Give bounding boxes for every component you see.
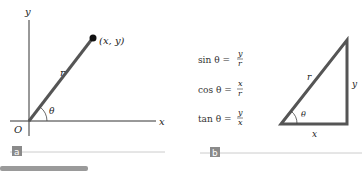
triangle-angle-label: θ	[301, 110, 306, 119]
diagram-canvas: y x O (x, y) r θ a sin θ = y r cos θ = x…	[0, 0, 362, 171]
x-axis-label: x	[159, 116, 165, 127]
cos-lhs: cos θ =	[198, 85, 232, 95]
badge-b-text: b	[212, 148, 218, 158]
angle-label: θ	[49, 106, 55, 116]
tan-den: x	[238, 118, 243, 127]
radius-line	[29, 39, 92, 121]
sin-num: y	[237, 49, 243, 58]
hypotenuse-label: r	[307, 72, 312, 82]
sin-den: r	[238, 59, 243, 68]
panel-a: y x O (x, y) r θ a	[0, 6, 165, 171]
tan-num: y	[237, 108, 243, 117]
badge-a-text: a	[14, 147, 20, 157]
sin-lhs: sin θ =	[198, 55, 230, 65]
tan-lhs: tan θ =	[198, 114, 231, 124]
point-dot	[90, 35, 97, 42]
footer-bar	[0, 166, 88, 171]
origin-label: O	[14, 124, 22, 135]
y-axis-label: y	[24, 6, 31, 17]
point-label: (x, y)	[99, 35, 125, 46]
triangle-angle-arc	[291, 111, 297, 124]
angle-arc	[40, 107, 47, 121]
cos-den: r	[238, 89, 243, 98]
adjacent-label: x	[312, 129, 317, 139]
opposite-label: y	[351, 79, 358, 89]
cos-num: x	[238, 79, 243, 88]
panel-b: sin θ = y r cos θ = x r tan θ = y x r y …	[198, 40, 362, 158]
